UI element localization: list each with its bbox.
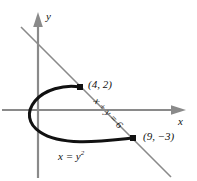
intersection-marker-lower [130,135,136,141]
intersection-marker-upper [77,84,83,90]
x-axis-arrowhead-icon [171,105,186,115]
figure-canvas [0,0,197,181]
curve-equation-label: x = y2 [58,150,84,162]
point-label-upper: (4, 2) [88,79,112,90]
math-figure: y x (4, 2) (9, −3) x + y = 6 x = y2 [0,0,197,181]
y-axis-arrowhead-icon [33,12,43,27]
y-axis-label: y [46,11,51,22]
point-label-lower: (9, −3) [143,131,174,142]
curve-equation-base: x = y [58,150,81,162]
curve-equation-exponent: 2 [81,149,85,157]
x-axis-label: x [178,116,183,127]
